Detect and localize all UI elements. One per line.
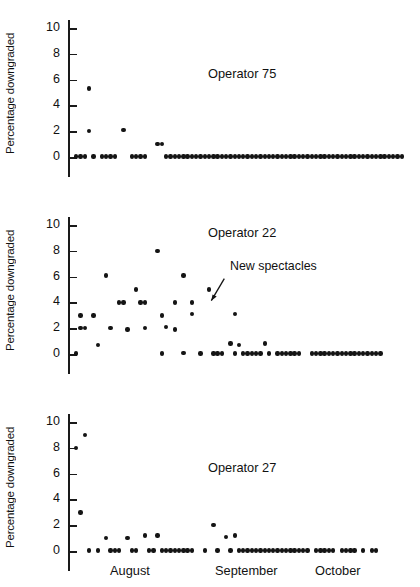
y-tick (70, 474, 77, 476)
data-point (258, 548, 262, 552)
panel-title-2: Operator 27 (208, 460, 276, 475)
annotation-arrow-icon (0, 197, 420, 392)
y-tick (70, 422, 77, 424)
data-point (155, 533, 159, 537)
data-point (134, 548, 138, 552)
data-point (91, 154, 95, 158)
data-point (117, 548, 121, 552)
y-tick-label: 2 (36, 124, 60, 137)
data-point (74, 446, 78, 450)
y-tick (70, 28, 77, 30)
y-tick (70, 525, 77, 527)
data-point (190, 548, 194, 552)
data-point (352, 548, 356, 552)
panel-title-0: Operator 75 (208, 66, 276, 81)
data-point (87, 548, 91, 552)
y-tick-label: 2 (36, 518, 60, 531)
data-point (331, 548, 335, 552)
data-point (233, 533, 237, 537)
data-point (151, 548, 155, 552)
panel-operator-22: Percentage downgraded 0246810 Operator 2… (0, 197, 420, 392)
y-tick-label: 4 (36, 492, 60, 505)
data-point (125, 536, 129, 540)
data-point (365, 154, 369, 158)
panel-operator-27: Percentage downgraded 0246810 Operator 2… (0, 394, 420, 587)
y-tick-label: 10 (36, 415, 60, 428)
data-point (258, 154, 262, 158)
data-point (83, 433, 87, 437)
data-point (198, 154, 202, 158)
data-point (400, 154, 404, 158)
data-point (228, 154, 232, 158)
y-tick (70, 131, 77, 133)
x-axis-month-label: October (315, 563, 361, 578)
data-point (224, 535, 228, 539)
y-tick-label: 6 (36, 467, 60, 480)
y-axis-line (68, 414, 70, 571)
figure-scatter-panels: Percentage downgraded 0246810 Operator 7… (0, 0, 420, 587)
data-point (215, 548, 219, 552)
data-point (78, 510, 82, 514)
plot-area-0: 0246810 (0, 0, 420, 195)
y-tick-label: 4 (36, 98, 60, 111)
data-point (203, 548, 207, 552)
data-point (211, 523, 215, 527)
y-tick (70, 80, 77, 82)
panel-operator-75: Percentage downgraded 0246810 Operator 7… (0, 0, 420, 195)
data-point (361, 548, 365, 552)
data-point (121, 128, 125, 132)
y-axis-line (68, 20, 70, 177)
y-tick (70, 551, 77, 553)
y-tick-label: 8 (36, 47, 60, 60)
y-tick-label: 6 (36, 73, 60, 86)
y-tick-label: 0 (36, 150, 60, 163)
data-point (87, 86, 91, 90)
y-tick (70, 105, 77, 107)
data-point (395, 154, 399, 158)
data-point (104, 536, 108, 540)
data-point (143, 154, 147, 158)
x-axis-month-label: September (215, 563, 278, 578)
data-point (374, 548, 378, 552)
data-point (160, 142, 164, 146)
y-tick-label: 0 (36, 544, 60, 557)
data-point (87, 129, 91, 133)
y-tick (70, 54, 77, 56)
data-point (96, 548, 100, 552)
y-tick (70, 499, 77, 501)
data-point (143, 533, 147, 537)
data-point (305, 548, 309, 552)
data-point (228, 548, 232, 552)
x-axis-month-label: August (110, 563, 150, 578)
plot-area-2: 0246810 (0, 394, 420, 587)
data-point (113, 154, 117, 158)
y-tick-label: 8 (36, 441, 60, 454)
data-point (83, 154, 87, 158)
y-tick-label: 10 (36, 21, 60, 34)
